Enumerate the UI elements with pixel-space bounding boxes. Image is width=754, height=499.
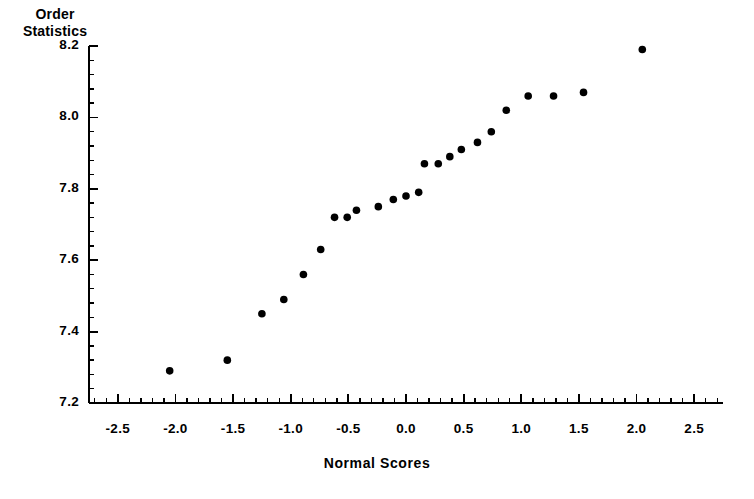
data-point: [434, 160, 442, 168]
y-tick-label: 7.6: [35, 251, 79, 266]
x-tick-label: -0.5: [318, 421, 378, 436]
data-point: [300, 271, 308, 279]
normal-probability-plot: Order Statistics 7.27.47.67.88.08.2 -2.5…: [0, 0, 754, 499]
data-point: [224, 356, 232, 364]
data-point-series: [166, 46, 646, 375]
data-point: [375, 203, 383, 211]
y-tick-label: 7.2: [35, 394, 79, 409]
data-point: [502, 106, 510, 114]
data-point: [166, 367, 174, 375]
x-axis-title: Normal Scores: [0, 455, 754, 471]
axes-lines: [89, 46, 723, 403]
data-point: [458, 146, 466, 154]
x-tick-label: -1.5: [203, 421, 263, 436]
y-tick-label: 7.4: [35, 323, 79, 338]
data-point: [353, 206, 361, 214]
data-point: [580, 89, 588, 97]
data-point: [402, 192, 410, 200]
x-tick-label: 1.5: [549, 421, 609, 436]
data-point: [550, 92, 558, 100]
data-point: [524, 92, 532, 100]
x-tick-label: 2.0: [607, 421, 667, 436]
x-tick-label: -1.0: [261, 421, 321, 436]
y-tick-label: 7.8: [35, 180, 79, 195]
data-point: [488, 128, 496, 136]
data-point: [258, 310, 266, 318]
x-tick-label: 0.0: [376, 421, 436, 436]
data-point: [639, 46, 647, 54]
x-tick-label: 2.5: [664, 421, 724, 436]
x-tick-label: -2.0: [145, 421, 205, 436]
data-point: [280, 296, 288, 304]
data-point: [446, 153, 454, 161]
data-point: [415, 189, 423, 197]
x-tick-label: -2.5: [88, 421, 148, 436]
data-point: [331, 214, 339, 222]
data-point: [343, 214, 351, 222]
y-tick-label: 8.2: [35, 37, 79, 52]
data-point: [317, 246, 325, 254]
x-tick-label: 1.0: [491, 421, 551, 436]
data-point: [390, 196, 398, 204]
y-tick-label: 8.0: [35, 108, 79, 123]
data-point: [421, 160, 429, 168]
axis-ticks: [89, 46, 717, 403]
x-tick-label: 0.5: [434, 421, 494, 436]
data-point: [474, 139, 482, 147]
